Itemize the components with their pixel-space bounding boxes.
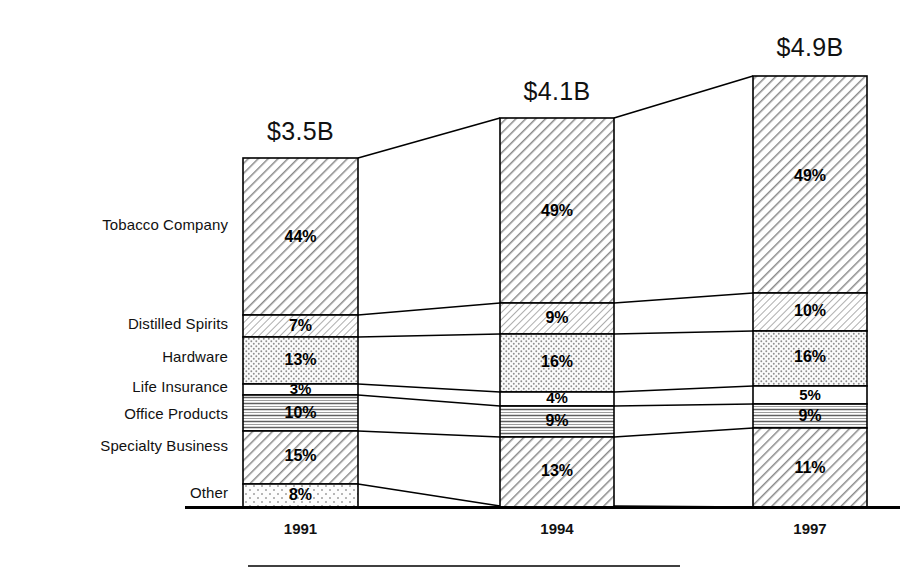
connector-lines-1991-1994 bbox=[358, 118, 500, 506]
segment-1997-tobacco-company[interactable] bbox=[753, 76, 867, 293]
total-label-1997: $4.9B bbox=[753, 33, 867, 62]
category-label-distilled-spirits: Distilled Spirits bbox=[0, 315, 228, 332]
bar-1997[interactable] bbox=[753, 76, 867, 507]
value-label-1991-life-insurance: 3% bbox=[243, 381, 358, 396]
value-label-1991-tobacco-company: 44% bbox=[243, 229, 358, 245]
category-label-tobacco-company: Tobacco Company bbox=[0, 216, 228, 233]
value-label-1994-life-insurance: 4% bbox=[500, 390, 614, 405]
value-label-1994-distilled-spirits: 9% bbox=[500, 310, 614, 326]
category-label-office-products: Office Products bbox=[0, 405, 228, 422]
category-label-hardware: Hardware bbox=[0, 348, 228, 365]
value-label-1991-other: 8% bbox=[243, 487, 358, 503]
value-label-1994-tobacco-company: 49% bbox=[500, 203, 614, 219]
value-label-1997-hardware: 16% bbox=[753, 349, 867, 365]
value-label-1991-distilled-spirits: 7% bbox=[243, 318, 358, 334]
chart-container: Tobacco Company Distilled Spirits Hardwa… bbox=[0, 0, 915, 571]
category-label-life-insurance: Life Insurance bbox=[0, 378, 228, 395]
x-tick-label-1997: 1997 bbox=[753, 520, 867, 537]
value-label-1997-specialty-business: 11% bbox=[753, 460, 867, 476]
value-label-1991-office-products: 10% bbox=[243, 405, 358, 421]
value-label-1997-distilled-spirits: 10% bbox=[753, 303, 867, 319]
value-label-1991-specialty-business: 15% bbox=[243, 448, 358, 464]
value-label-1997-office-products: 9% bbox=[753, 408, 867, 424]
connector-lines-1994-1997 bbox=[614, 76, 753, 507]
x-tick-label-1991: 1991 bbox=[243, 520, 358, 537]
total-label-1994: $4.1B bbox=[500, 77, 614, 106]
value-label-1997-life-insurance: 5% bbox=[753, 387, 867, 402]
value-label-1994-office-products: 9% bbox=[500, 413, 614, 429]
x-tick-label-1994: 1994 bbox=[500, 520, 614, 537]
value-label-1997-tobacco-company: 49% bbox=[753, 168, 867, 184]
category-label-specialty-business: Specialty Business bbox=[0, 437, 228, 454]
value-label-1994-specialty-business: 13% bbox=[500, 463, 614, 479]
value-label-1991-hardware: 13% bbox=[243, 352, 358, 368]
category-label-other: Other bbox=[0, 484, 228, 501]
value-label-1994-hardware: 16% bbox=[500, 354, 614, 370]
total-label-1991: $3.5B bbox=[243, 117, 358, 146]
